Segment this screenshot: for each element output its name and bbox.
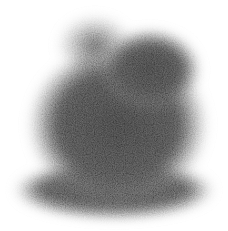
bunny-blob-graphic xyxy=(0,0,228,231)
bunny-blob-image xyxy=(0,0,228,231)
head xyxy=(100,30,200,110)
